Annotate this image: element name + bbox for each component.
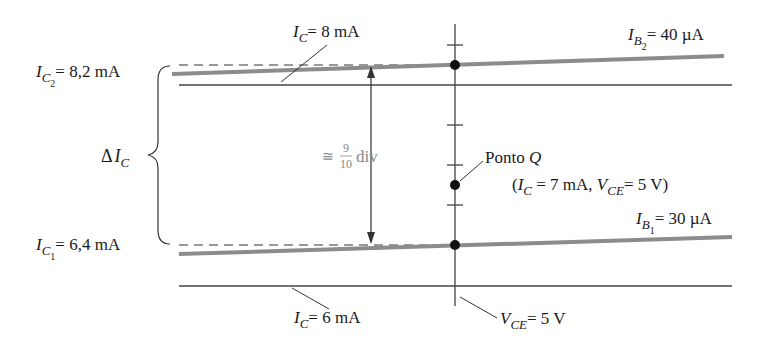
- delta-ic-brace: [148, 66, 170, 244]
- svg-text:≅: ≅: [322, 149, 334, 164]
- vce-leader-line: [460, 297, 497, 318]
- ic-8ma-label: IC= 8 mA: [292, 22, 360, 45]
- ic8-leader-line: [281, 45, 327, 82]
- svg-text:9: 9: [343, 141, 349, 155]
- ic6-leader-line: [292, 288, 329, 309]
- q-point-coordinates: (IC = 7 mA, VCE= 5 V): [512, 175, 668, 198]
- svg-text:div: div: [356, 147, 378, 166]
- svg-text:10: 10: [340, 157, 352, 171]
- ic2-intersection-dot: [450, 60, 460, 70]
- ponto-q-leader-line: [460, 161, 483, 181]
- arrow-down-icon: [367, 232, 375, 244]
- delta-ic-label: ΔIC: [101, 146, 130, 170]
- vce-5v-label: VCE= 5 V: [500, 309, 566, 332]
- ic1-intersection-dot: [450, 240, 460, 250]
- ib1-label: IB1= 30 µA: [635, 209, 713, 236]
- ib2-label: IB2= 40 µA: [627, 25, 705, 52]
- ponto-q-label: Ponto Q: [485, 148, 541, 167]
- ic2-label: IC2= 8,2 mA: [35, 62, 121, 89]
- q-point-dot: [450, 180, 460, 190]
- ic-6ma-label: IC= 6 mA: [293, 308, 361, 331]
- ic-vce-characteristic-diagram: IC2= 8,2 mA IC1= 6,4 mA ΔIC IC= 8 mA IC=…: [0, 0, 771, 356]
- ic1-label: IC1= 6,4 mA: [35, 235, 121, 262]
